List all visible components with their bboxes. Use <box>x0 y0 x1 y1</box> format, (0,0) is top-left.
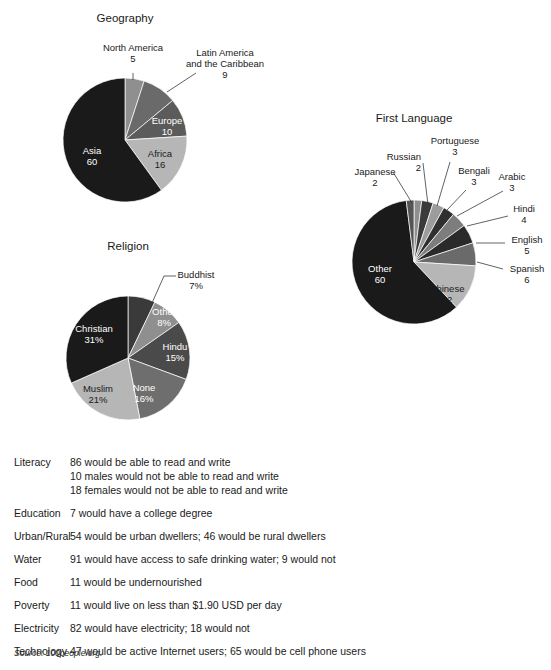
stat-value-line: 91 would have access to safe drinking wa… <box>70 552 551 566</box>
stat-label-food: Food <box>0 575 70 589</box>
stat-value-line: 7 would have a college degree <box>70 506 551 520</box>
slice-name: Latin America <box>196 47 254 58</box>
slice-name: Other <box>152 306 176 317</box>
slice-value: 2 <box>416 162 421 173</box>
stat-label-urban-rural: Urban/Rural <box>0 529 70 543</box>
slice-name: Chinese <box>430 283 465 294</box>
stat-row-water: Water91 would have access to safe drinki… <box>0 552 551 566</box>
slice-value: 8% <box>157 317 171 328</box>
slice-name: Christian <box>75 323 113 334</box>
slice-value: 16 <box>155 159 166 170</box>
source-note: Source: 100people.org. <box>14 648 102 658</box>
stat-values-food: 11 would be undernourished <box>70 575 551 589</box>
leader-line-hindi <box>467 216 508 226</box>
slice-name: Arabic <box>499 171 526 182</box>
slice-label-first-language-english: English5 <box>511 234 542 256</box>
slice-label-first-language-japanese: Japanese2 <box>354 166 395 188</box>
slice-label-religion-hindu: Hindu15% <box>163 341 188 363</box>
slice-value: 6 <box>524 274 529 285</box>
slice-name: Buddhist <box>178 269 215 280</box>
stat-value-line: 86 would be able to read and write <box>70 455 551 469</box>
pie-chart-religion: ReligionBuddhist7%Other8%Hindu15%None16%… <box>66 240 215 420</box>
slice-value: 5 <box>130 53 135 64</box>
slice-value: 5 <box>524 245 529 256</box>
stat-label-water: Water <box>0 552 70 566</box>
stat-row-food: Food11 would be undernourished <box>0 575 551 589</box>
slice-value: 7% <box>189 280 203 291</box>
slice-value: 12 <box>442 294 453 305</box>
slice-value: 9 <box>222 69 227 80</box>
stat-value-line: 11 would be undernourished <box>70 575 551 589</box>
slice-value: 60 <box>375 274 386 285</box>
slice-label-first-language-spanish: Spanish6 <box>510 263 544 285</box>
leader-line-bengali <box>447 190 466 210</box>
slice-name: North America <box>103 42 164 53</box>
slice-label-religion-buddhist: Buddhist7% <box>178 269 215 291</box>
slice-label-first-language-arabic: Arabic3 <box>499 171 526 193</box>
slice-label-geography-north-america: North America5 <box>103 42 164 64</box>
slice-value: 4 <box>521 214 526 225</box>
slice-name: Asia <box>83 145 102 156</box>
infographic-root: GeographyNorth America5Latin Americaand … <box>0 0 551 670</box>
slice-name: Muslim <box>83 383 113 394</box>
stat-value-line: 10 males would not be able to read and w… <box>70 469 551 483</box>
slice-value: 31% <box>84 334 104 345</box>
stat-values-technology: 47 would be active Internet users; 65 wo… <box>70 644 551 658</box>
stat-label-education: Education <box>0 506 70 520</box>
stat-label-poverty: Poverty <box>0 598 70 612</box>
stat-row-education: Education7 would have a college degree <box>0 506 551 520</box>
stat-values-education: 7 would have a college degree <box>70 506 551 520</box>
slice-value: 21% <box>88 394 108 405</box>
statistics-list: Literacy86 would be able to read and wri… <box>0 455 551 667</box>
chart-title-geography: Geography <box>97 12 154 24</box>
stat-row-electricity: Electricity82 would have electricity; 18… <box>0 621 551 635</box>
slice-name: Portuguese <box>431 135 480 146</box>
pie-chart-geography: GeographyNorth America5Latin Americaand … <box>63 12 264 202</box>
stat-value-line: 82 would have electricity; 18 would not <box>70 621 551 635</box>
slice-name: Japanese <box>354 166 395 177</box>
slice-name: Spanish <box>510 263 544 274</box>
slice-value: 3 <box>452 146 457 157</box>
leader-line-buddhist <box>152 276 176 303</box>
slice-value: 3 <box>509 182 514 193</box>
slice-name: English <box>511 234 542 245</box>
leader-line-arabic <box>457 191 503 216</box>
leader-line-latin-america <box>167 73 196 92</box>
slice-label-first-language-portuguese: Portuguese3 <box>431 135 480 157</box>
stat-values-water: 91 would have access to safe drinking wa… <box>70 552 551 566</box>
slice-value: 15% <box>165 352 185 363</box>
slice-name: None <box>133 382 156 393</box>
slice-name: Hindu <box>163 341 188 352</box>
stat-values-urban-rural: 54 would be urban dwellers; 46 would be … <box>70 529 551 543</box>
slice-name: and the Caribbean <box>186 58 264 69</box>
stat-values-literacy: 86 would be able to read and write10 mal… <box>70 455 551 497</box>
stat-row-poverty: Poverty11 would live on less than $1.90 … <box>0 598 551 612</box>
slice-name: Africa <box>148 148 173 159</box>
slice-label-religion-none: None16% <box>133 382 156 404</box>
slice-name: Russian <box>387 151 421 162</box>
slice-value: 16% <box>134 393 154 404</box>
slice-name: Europe <box>152 115 183 126</box>
pie-chart-first-language: First LanguageRussian2Portuguese3Bengali… <box>352 112 544 324</box>
stat-value-line: 47 would be active Internet users; 65 wo… <box>70 644 551 658</box>
stat-label-literacy: Literacy <box>0 455 70 469</box>
leader-line-spanish <box>477 262 503 269</box>
slice-label-first-language-hindi: Hindi4 <box>513 203 535 225</box>
slice-value: 3 <box>471 176 476 187</box>
stat-label-electricity: Electricity <box>0 621 70 635</box>
slice-value: 60 <box>87 156 98 167</box>
pie-charts-group: GeographyNorth America5Latin Americaand … <box>0 0 551 460</box>
slice-name: Hindi <box>513 203 535 214</box>
chart-title-first-language: First Language <box>376 112 453 124</box>
stat-row-urban-rural: Urban/Rural54 would be urban dwellers; 4… <box>0 529 551 543</box>
slice-name: Other <box>368 263 392 274</box>
leader-line-japanese <box>393 172 412 203</box>
stat-values-electricity: 82 would have electricity; 18 would not <box>70 621 551 635</box>
slice-label-geography-latin-america: Latin Americaand the Caribbean9 <box>186 47 264 80</box>
slice-value: 10 <box>162 126 173 137</box>
stat-value-line: 11 would live on less than $1.90 USD per… <box>70 598 551 612</box>
stat-value-line: 54 would be urban dwellers; 46 would be … <box>70 529 551 543</box>
leader-line-portuguese <box>437 162 450 206</box>
stat-value-line: 18 females would not be able to read and… <box>70 483 551 497</box>
stat-values-poverty: 11 would live on less than $1.90 USD per… <box>70 598 551 612</box>
